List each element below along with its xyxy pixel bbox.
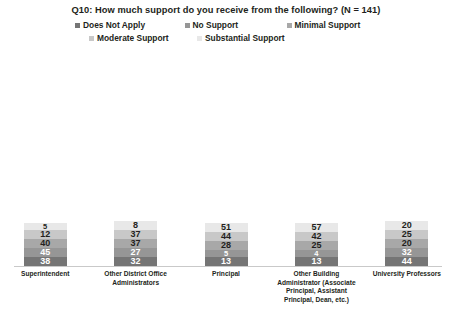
bar-segment[interactable]: 25 (385, 230, 428, 239)
category-label: Other Building Administrator (Associate … (271, 270, 361, 304)
bar-segment-value: 8 (133, 221, 138, 230)
bar-group: 5124045388373727325144285135742254132025… (0, 64, 452, 266)
bar-segment[interactable]: 37 (114, 239, 157, 248)
bar-segment-value: 51 (221, 223, 231, 232)
bar-segment[interactable]: 44 (205, 232, 248, 241)
stacked-bar[interactable]: 837372732 (114, 221, 157, 266)
stacked-bar[interactable]: 574225413 (295, 223, 338, 267)
bar-segment[interactable]: 40 (24, 239, 67, 248)
bar-segment-value: 20 (402, 221, 412, 230)
x-axis-line (14, 266, 442, 267)
bar-segment[interactable]: 20 (385, 239, 428, 248)
bar-segment[interactable]: 37 (114, 230, 157, 239)
bar-segment-value: 32 (131, 257, 141, 266)
chart-title: Q10: How much support do you receive fro… (0, 5, 452, 15)
bar-segment[interactable]: 4 (295, 250, 338, 258)
legend-item-moderate-support[interactable]: Moderate Support (89, 33, 197, 44)
legend-swatch-substantial-support (197, 36, 202, 41)
bar-segment-value: 12 (40, 230, 50, 239)
bar-segment[interactable]: 5 (205, 250, 248, 258)
bar-segment[interactable]: 25 (295, 241, 338, 250)
stacked-bar[interactable]: 2025203244 (385, 221, 428, 266)
bar-slot: 514428513 (181, 64, 271, 266)
bar-segment-value: 13 (221, 257, 231, 266)
bar-slot: 2025203244 (362, 64, 452, 266)
bar-slot: 512404538 (0, 64, 90, 266)
legend-label-minimal-support: Minimal Support (295, 20, 361, 31)
bar-segment[interactable]: 42 (295, 232, 338, 241)
legend-swatch-moderate-support (89, 36, 94, 41)
bar-segment[interactable]: 45 (24, 248, 67, 257)
bar-segment[interactable]: 57 (295, 223, 338, 232)
category-label: University Professors (362, 270, 452, 304)
legend-row-1: Does Not Apply No Support Minimal Suppor… (71, 19, 381, 32)
bar-slot: 837372732 (90, 64, 180, 266)
legend-row-2: Moderate Support Substantial Support (71, 32, 381, 45)
legend-item-no-support[interactable]: No Support (185, 20, 287, 31)
bar-segment-value: 27 (131, 248, 141, 257)
bar-segment[interactable]: 32 (385, 248, 428, 257)
bar-segment[interactable]: 38 (24, 257, 67, 266)
category-axis-labels: SuperintendentOther District Office Admi… (0, 270, 452, 304)
legend-label-moderate-support: Moderate Support (97, 33, 169, 44)
bar-segment-value: 5 (43, 223, 47, 231)
bar-segment[interactable]: 20 (385, 221, 428, 230)
bar-slot: 574225413 (271, 64, 361, 266)
category-label: Principal (181, 270, 271, 304)
bar-segment-value: 45 (40, 248, 50, 257)
bar-segment[interactable]: 12 (24, 230, 67, 239)
legend-label-substantial-support: Substantial Support (205, 33, 285, 44)
category-label: Other District Office Administrators (90, 270, 180, 304)
bar-segment[interactable]: 8 (114, 221, 157, 230)
bar-segment[interactable]: 13 (205, 257, 248, 266)
stacked-bar[interactable]: 514428513 (205, 223, 248, 267)
stacked-bar[interactable]: 512404538 (24, 223, 67, 267)
bar-segment-value: 42 (311, 232, 321, 241)
legend-item-minimal-support[interactable]: Minimal Support (287, 20, 381, 31)
bar-segment-value: 40 (40, 239, 50, 248)
legend-label-no-support: No Support (193, 20, 239, 31)
legend-item-does-not-apply[interactable]: Does Not Apply (75, 20, 185, 31)
bar-segment[interactable]: 27 (114, 248, 157, 257)
bar-segment-value: 44 (221, 232, 231, 241)
plot-area: 5124045388373727325144285135742254132025… (0, 57, 452, 267)
chart-legend: Does Not Apply No Support Minimal Suppor… (71, 19, 381, 45)
bar-segment-value: 38 (40, 257, 50, 266)
bar-segment-value: 5 (224, 250, 228, 258)
bar-segment-value: 20 (402, 239, 412, 248)
legend-swatch-does-not-apply (75, 23, 80, 28)
bar-segment[interactable]: 51 (205, 223, 248, 232)
legend-label-does-not-apply: Does Not Apply (83, 20, 145, 31)
legend-swatch-minimal-support (287, 23, 292, 28)
bar-segment[interactable]: 32 (114, 257, 157, 266)
category-label: Superintendent (0, 270, 90, 304)
bar-segment-value: 32 (402, 248, 412, 257)
bar-segment-value: 4 (314, 250, 318, 258)
bar-segment-value: 13 (311, 257, 321, 266)
bar-segment-value: 37 (131, 239, 141, 248)
bar-segment-value: 25 (402, 230, 412, 239)
bar-segment-value: 25 (311, 241, 321, 250)
bar-segment-value: 28 (221, 241, 231, 250)
bar-segment[interactable]: 44 (385, 257, 428, 266)
legend-swatch-no-support (185, 23, 190, 28)
bar-segment[interactable]: 5 (24, 223, 67, 231)
bar-segment[interactable]: 13 (295, 257, 338, 266)
bar-segment-value: 57 (311, 223, 321, 232)
bar-segment-value: 44 (402, 257, 412, 266)
bar-segment[interactable]: 28 (205, 241, 248, 250)
bar-segment-value: 37 (131, 230, 141, 239)
legend-item-substantial-support[interactable]: Substantial Support (197, 33, 307, 44)
